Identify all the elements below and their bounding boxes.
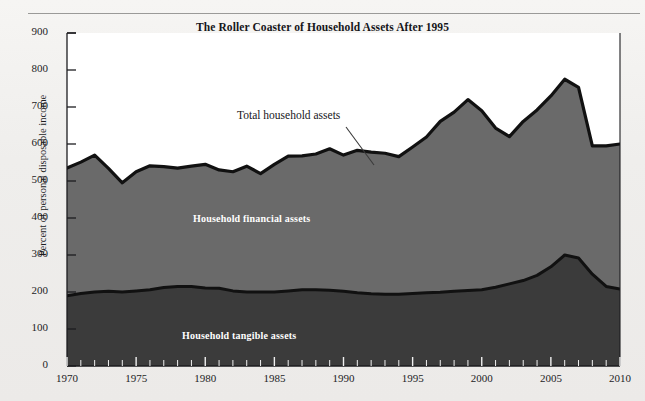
x-tick-label-1980: 1980 — [179, 372, 231, 384]
x-tick-label-2010: 2010 — [594, 372, 645, 384]
x-tick-label-1985: 1985 — [248, 372, 300, 384]
annotation-household-financial-assets: Household financial assets — [193, 213, 310, 224]
chart-plot-area — [0, 0, 645, 401]
x-tick-label-1995: 1995 — [387, 372, 439, 384]
x-tick-label-2000: 2000 — [456, 372, 508, 384]
x-tick-label-2005: 2005 — [525, 372, 577, 384]
x-tick-label-1970: 1970 — [41, 372, 93, 384]
figure-container: The Roller Coaster of Household Assets A… — [0, 0, 645, 401]
x-tick-label-1990: 1990 — [318, 372, 370, 384]
x-tick-label-1975: 1975 — [110, 372, 162, 384]
annotation-total-household-assets: Total household assets — [237, 109, 340, 121]
annotation-household-tangible-assets: Household tangible assets — [182, 330, 296, 341]
